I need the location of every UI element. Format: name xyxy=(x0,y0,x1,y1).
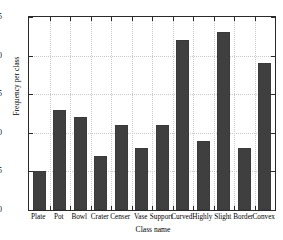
x-tick-label: Bowl xyxy=(71,213,87,221)
x-tick-mark xyxy=(111,206,112,210)
gridline-vertical xyxy=(152,17,153,210)
y-tick-label: 0 xyxy=(0,205,2,214)
gridline-vertical xyxy=(70,17,71,210)
x-axis-title: Class name xyxy=(28,225,278,234)
x-tick-mark xyxy=(234,206,235,210)
bar xyxy=(176,40,189,210)
x-tick-mark xyxy=(132,206,133,210)
x-tick-mark xyxy=(234,17,235,21)
x-tick-mark xyxy=(255,17,256,21)
y-tick-mark xyxy=(271,17,275,18)
x-tick-mark xyxy=(173,206,174,210)
bar-chart-figure: Frequency per class Class name 051015202… xyxy=(0,0,283,240)
y-tick-label: 20 xyxy=(0,50,2,59)
x-tick-label: Pot xyxy=(54,213,64,221)
y-tick-mark xyxy=(271,210,275,211)
x-tick-mark xyxy=(70,17,71,21)
x-tick-mark xyxy=(50,17,51,21)
plot-area xyxy=(28,16,276,211)
gridline-vertical xyxy=(50,17,51,210)
x-tick-mark xyxy=(173,17,174,21)
y-tick-mark xyxy=(29,133,33,134)
bar xyxy=(53,110,66,210)
x-tick-label: Slight xyxy=(214,213,231,221)
y-tick-mark xyxy=(271,94,275,95)
x-tick-label: Curved xyxy=(171,213,192,221)
x-tick-mark xyxy=(214,206,215,210)
x-tick-label: Support xyxy=(150,213,173,221)
gridline-vertical xyxy=(111,17,112,210)
x-tick-label: Border xyxy=(233,213,253,221)
x-tick-label: Convex xyxy=(253,213,275,221)
x-tick-mark xyxy=(70,206,71,210)
gridline-vertical xyxy=(234,17,235,210)
y-tick-label: 15 xyxy=(0,89,2,98)
gridline-vertical xyxy=(91,17,92,210)
x-tick-mark xyxy=(111,17,112,21)
bar xyxy=(135,148,148,210)
bar xyxy=(258,63,271,210)
bar xyxy=(33,171,46,210)
y-tick-mark xyxy=(29,94,33,95)
gridline-vertical xyxy=(132,17,133,210)
y-axis-title: Frequency per class xyxy=(13,36,21,136)
y-tick-mark xyxy=(29,17,33,18)
x-tick-mark xyxy=(193,206,194,210)
x-tick-mark xyxy=(132,17,133,21)
x-tick-mark xyxy=(214,17,215,21)
x-tick-mark xyxy=(91,17,92,21)
x-tick-label: Plate xyxy=(31,213,45,221)
x-tick-label: Censer xyxy=(110,213,130,221)
y-tick-label: 10 xyxy=(0,127,2,136)
bar xyxy=(115,125,128,210)
y-tick-mark xyxy=(271,133,275,134)
y-tick-mark xyxy=(29,210,33,211)
x-tick-label: Vase xyxy=(134,213,148,221)
bar xyxy=(74,117,87,210)
x-tick-mark xyxy=(255,206,256,210)
y-tick-mark xyxy=(271,56,275,57)
x-tick-label: Crater xyxy=(91,213,109,221)
gridline-vertical xyxy=(173,17,174,210)
x-tick-mark xyxy=(152,17,153,21)
y-tick-label: 25 xyxy=(0,12,2,21)
y-tick-mark xyxy=(29,56,33,57)
gridline-vertical xyxy=(255,17,256,210)
bar xyxy=(238,148,251,210)
x-tick-mark xyxy=(91,206,92,210)
y-tick-mark xyxy=(271,171,275,172)
bar xyxy=(217,32,230,210)
y-tick-label: 5 xyxy=(0,166,2,175)
x-tick-mark xyxy=(152,206,153,210)
x-tick-mark xyxy=(50,206,51,210)
gridline-vertical xyxy=(214,17,215,210)
x-tick-mark xyxy=(193,17,194,21)
bar xyxy=(94,156,107,210)
gridline-vertical xyxy=(193,17,194,210)
bar xyxy=(156,125,169,210)
x-tick-label: Highly xyxy=(192,213,212,221)
bar xyxy=(197,141,210,210)
